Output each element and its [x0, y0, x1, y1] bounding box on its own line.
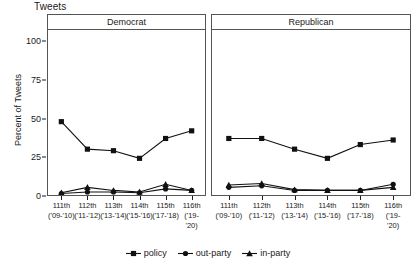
x-tick-mark [87, 196, 88, 200]
panel-header-democrat: Democrat [48, 15, 205, 30]
x-tick-mark [262, 196, 263, 200]
x-tick-label-congress: 116th [183, 201, 201, 211]
y-tick-mark [42, 80, 46, 81]
x-tick-label-years: ('13-'14) [100, 211, 127, 221]
x-tick-label-years: ('15-'16) [126, 211, 153, 221]
panel-democrat: Democrat [47, 14, 206, 196]
y-tick-mark [42, 118, 46, 119]
y-tick-mark [42, 41, 46, 42]
x-tick-label-congress: 115th [152, 201, 179, 211]
y-tick-label: 25 [31, 152, 41, 162]
x-tick-mark [166, 196, 167, 200]
x-tick-label-years: ('11-'12) [249, 211, 275, 221]
plot-area-democrat [48, 30, 205, 195]
x-tick-mark [393, 196, 394, 200]
x-tick-label: 116th('19-'20) [183, 201, 201, 231]
x-tick-label-congress: 113th [100, 201, 127, 211]
x-tick-mark [327, 196, 328, 200]
x-tick-mark [61, 196, 62, 200]
x-tick-label: 116th('19-'20) [384, 201, 402, 231]
x-tick-label-years: ('17-'18) [347, 211, 374, 221]
triangle-marker-icon [242, 249, 257, 258]
x-tick-label-congress: 112th [74, 201, 100, 211]
x-tick-mark [229, 196, 230, 200]
panel-header-republican: Republican [212, 15, 410, 30]
x-tick-label-years: ('09-'10) [216, 211, 243, 221]
legend-item-policy[interactable]: policy [126, 248, 167, 258]
x-tick-label-congress: 112th [249, 201, 275, 211]
x-tick-label-years: ('17-'18) [152, 211, 179, 221]
x-tick-label-congress: 116th [384, 201, 402, 211]
panel-republican: Republican [211, 14, 411, 196]
y-tick-mark [42, 157, 46, 158]
x-tick-label: 114th('15-'16) [314, 201, 341, 221]
legend-item-in-party[interactable]: in-party [242, 248, 290, 258]
x-tick-label-years: ('11-'12) [74, 211, 100, 221]
legend-label: out-party [196, 248, 232, 258]
plot-area-republican [212, 30, 410, 195]
chart-legend: policy out-party in-party [0, 248, 416, 258]
x-tick-mark [113, 196, 114, 200]
x-tick-label: 115th('17-'18) [152, 201, 179, 221]
x-tick-label: 115th('17-'18) [347, 201, 374, 221]
legend-item-out-party[interactable]: out-party [178, 248, 232, 258]
x-axis-ticks-democrat: 111th('09-'10)112th('11-'12)113th('13-'1… [47, 196, 206, 226]
x-tick-label: 113th('13-'14) [100, 201, 127, 221]
x-tick-label-years: ('15-'16) [314, 211, 341, 221]
x-tick-label-congress: 111th [216, 201, 243, 211]
x-tick-label-congress: 114th [126, 201, 153, 211]
y-tick-mark [42, 196, 46, 197]
y-axis-ticks: 0255075100 [0, 0, 47, 272]
x-tick-label: 111th('09-'10) [48, 201, 75, 221]
legend-label: policy [144, 248, 167, 258]
x-tick-mark [192, 196, 193, 200]
x-tick-label-years: ('19-'20) [384, 211, 402, 231]
x-tick-label-years: ('19-'20) [183, 211, 201, 231]
y-tick-label: 50 [31, 114, 41, 124]
x-tick-label: 113th('13-'14) [281, 201, 308, 221]
y-tick-label: 75 [31, 75, 41, 85]
x-tick-label: 111th('09-'10) [216, 201, 243, 221]
y-tick-label: 0 [36, 191, 41, 201]
square-marker-icon [126, 249, 141, 258]
x-tick-label: 112th('11-'12) [74, 201, 100, 221]
x-tick-label: 114th('15-'16) [126, 201, 153, 221]
x-tick-mark [140, 196, 141, 200]
x-axis-ticks-republican: 111th('09-'10)112th('11-'12)113th('13-'1… [211, 196, 411, 226]
x-tick-label-congress: 111th [48, 201, 75, 211]
x-tick-label-congress: 115th [347, 201, 374, 211]
x-tick-label-years: ('09-'10) [48, 211, 75, 221]
circle-marker-icon [178, 249, 193, 258]
y-tick-label: 100 [26, 36, 41, 46]
x-tick-label-congress: 113th [281, 201, 308, 211]
legend-label: in-party [260, 248, 290, 258]
x-tick-label-congress: 114th [314, 201, 341, 211]
x-tick-label: 112th('11-'12) [249, 201, 275, 221]
x-tick-mark [295, 196, 296, 200]
x-tick-label-years: ('13-'14) [281, 211, 308, 221]
x-tick-mark [360, 196, 361, 200]
chart-root: Tweets Percent of Tweets 0255075100 Demo… [0, 0, 416, 272]
